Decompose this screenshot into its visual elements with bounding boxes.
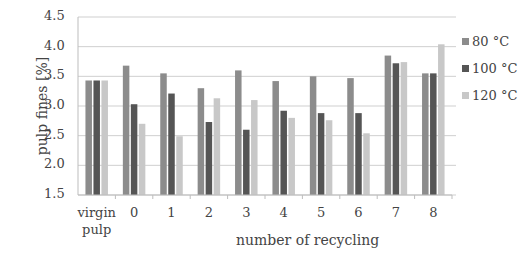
bar — [401, 62, 408, 195]
bar — [422, 73, 429, 195]
legend-swatch-icon — [462, 92, 469, 99]
x-axis-title: number of recycling — [236, 232, 379, 248]
bar — [363, 133, 370, 195]
legend-label: 100 °C — [472, 61, 517, 76]
x-tick-label: 5 — [301, 204, 341, 221]
bar — [176, 136, 183, 195]
bar-chart: 1.52.02.53.03.54.04.5 virginpulp01234567… — [0, 0, 526, 254]
bar — [280, 111, 287, 195]
bar — [206, 122, 213, 195]
bar — [131, 104, 138, 195]
x-tick-label: 3 — [226, 204, 266, 221]
bar — [198, 88, 205, 195]
bar — [160, 73, 167, 195]
x-tick-label: 7 — [376, 204, 416, 221]
legend-item: 120 °C — [462, 88, 517, 103]
legend-swatch-icon — [462, 65, 469, 72]
legend-label: 120 °C — [472, 88, 517, 103]
bar — [326, 120, 333, 195]
legend-label: 80 °C — [472, 34, 509, 49]
bar — [393, 63, 400, 195]
bar — [235, 70, 242, 195]
x-tick-label: 1 — [152, 204, 192, 221]
x-tick-label: 4 — [264, 204, 304, 221]
bar — [310, 76, 317, 195]
y-tick-label: 2.0 — [44, 156, 65, 171]
y-axis-title: pulp fines [%] — [34, 56, 50, 156]
bar — [101, 80, 108, 195]
bar — [272, 81, 279, 195]
x-tick-label: 0 — [114, 204, 154, 221]
bar — [318, 113, 325, 195]
bar — [355, 113, 362, 195]
bar — [93, 80, 100, 195]
x-tick-label: virginpulp — [77, 204, 117, 238]
y-tick-label: 1.5 — [44, 186, 65, 201]
bar — [168, 94, 175, 195]
bar — [251, 100, 257, 195]
y-tick-label: 4.0 — [44, 38, 65, 53]
x-tick-label: 6 — [339, 204, 379, 221]
bar — [347, 78, 354, 195]
legend-item: 100 °C — [462, 61, 517, 76]
bar — [243, 130, 250, 195]
y-tick-label: 4.5 — [44, 8, 65, 23]
bar — [139, 124, 146, 195]
legend-swatch-icon — [462, 38, 469, 45]
bar — [430, 73, 437, 195]
legend-item: 80 °C — [462, 34, 509, 49]
bar — [214, 98, 221, 195]
x-tick-label: 8 — [413, 204, 453, 221]
x-tick-label: 2 — [189, 204, 229, 221]
bar — [123, 66, 130, 195]
bar — [438, 44, 445, 195]
bar — [288, 118, 295, 195]
bar — [85, 80, 92, 195]
bar — [385, 56, 392, 195]
